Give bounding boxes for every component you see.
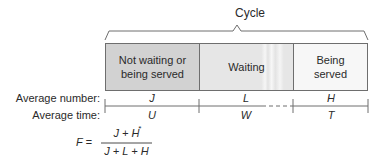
cycle-box: Not waiting or being served Waiting Bein…	[105, 43, 368, 91]
var-J: J	[132, 92, 172, 104]
average-time-label: Average time:	[0, 109, 100, 121]
segment-text: Being	[314, 53, 347, 67]
var-U: U	[132, 109, 172, 121]
formula-denominator: J + L + H	[96, 145, 157, 157]
segment-text: Not waiting or	[119, 53, 186, 67]
var-W: W	[226, 109, 266, 121]
segment-waiting: Waiting	[200, 44, 294, 90]
formula-numerator: J + H	[101, 127, 152, 139]
var-H: H	[311, 92, 351, 104]
var-L: L	[226, 92, 266, 104]
var-T: T	[311, 109, 351, 121]
formula-lhs: F =	[76, 136, 92, 148]
segment-text: Waiting	[228, 60, 264, 74]
segment-text: served	[314, 67, 347, 81]
average-number-label: Average number:	[0, 92, 100, 104]
segment-text: being served	[119, 67, 186, 81]
segment-being-served: Being served	[294, 44, 367, 90]
segment-not-waiting: Not waiting or being served	[106, 44, 200, 90]
formula-asterisk: *	[138, 124, 141, 133]
